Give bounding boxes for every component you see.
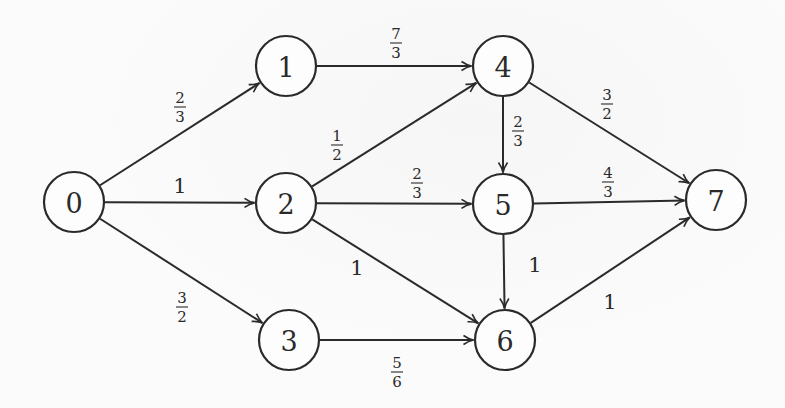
node-0: 0 [44, 172, 104, 232]
node-label: 7 [707, 186, 724, 217]
edge-weight-label-0-1: 23 [174, 89, 186, 126]
edge-weight-label-0-3: 32 [176, 289, 188, 326]
weight-denominator: 2 [602, 105, 612, 123]
node-6: 6 [475, 310, 535, 370]
node-label: 0 [65, 188, 82, 219]
node-3: 3 [259, 310, 319, 370]
weight-numerator: 4 [603, 164, 613, 182]
edge-0-to-2 [105, 202, 255, 203]
weight-denominator: 3 [603, 183, 613, 201]
edge-weight-label-4-5: 23 [512, 113, 524, 150]
edge-weight-label-5-7: 43 [602, 164, 614, 201]
edge-weight-label-0-2: 1 [173, 174, 186, 198]
node-4: 4 [473, 36, 533, 96]
node-label: 3 [280, 326, 297, 357]
edge-5-to-7 [534, 201, 685, 204]
node-7: 7 [686, 170, 746, 230]
edge-weight-label-4-7: 32 [601, 86, 613, 123]
edge-weight-label-6-7: 1 [603, 290, 616, 314]
edge-2-to-5 [317, 203, 472, 204]
edge-weight-label-1-4: 73 [390, 25, 402, 62]
weight-numerator: 2 [513, 113, 523, 131]
diagram-canvas: 01234567 2313273122315623324311 [0, 0, 785, 408]
weight-numerator: 1 [332, 127, 342, 145]
weight-denominator: 2 [177, 308, 187, 326]
edge-weight-label-2-6: 1 [350, 256, 363, 280]
weight-denominator: 6 [392, 373, 402, 391]
node-2: 2 [256, 173, 316, 233]
weight-value: 1 [173, 174, 186, 198]
node-1: 1 [256, 36, 316, 96]
weight-denominator: 2 [332, 146, 342, 164]
node-label: 2 [277, 189, 294, 220]
weight-value: 1 [603, 290, 616, 314]
edge-5-to-6 [503, 235, 504, 309]
weight-value: 1 [350, 256, 363, 280]
edge-weight-label-5-6: 1 [528, 253, 541, 277]
weight-numerator: 3 [177, 289, 187, 307]
edge-labels-layer: 2313273122315623324311 [173, 25, 616, 391]
edge-weight-label-3-6: 56 [391, 354, 403, 391]
edge-weight-label-2-4: 12 [331, 127, 343, 164]
weight-denominator: 3 [412, 184, 422, 202]
weight-numerator: 3 [602, 86, 612, 104]
edge-weight-label-2-5: 23 [411, 165, 423, 202]
directed-graph: 01234567 2313273122315623324311 [0, 0, 785, 408]
weight-value: 1 [528, 253, 541, 277]
node-label: 5 [494, 190, 511, 221]
weight-numerator: 2 [175, 89, 185, 107]
weight-numerator: 5 [392, 354, 402, 372]
node-label: 6 [496, 326, 513, 357]
weight-numerator: 7 [391, 25, 401, 43]
node-label: 4 [494, 52, 511, 83]
node-label: 1 [277, 52, 294, 83]
weight-numerator: 2 [412, 165, 422, 183]
edge-2-to-6 [312, 219, 478, 323]
weight-denominator: 3 [391, 44, 401, 62]
weight-denominator: 3 [513, 132, 523, 150]
node-5: 5 [473, 174, 533, 234]
weight-denominator: 3 [175, 108, 185, 126]
